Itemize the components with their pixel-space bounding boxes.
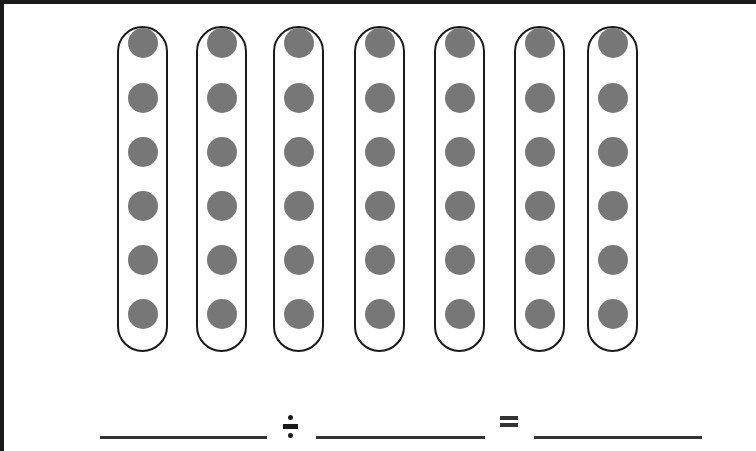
- counter-dot: [207, 137, 237, 167]
- counter-dot: [445, 299, 475, 329]
- counter-dot: [445, 83, 475, 113]
- counter-dot: [445, 137, 475, 167]
- dividend-blank[interactable]: [100, 436, 267, 439]
- counter-dot: [598, 28, 628, 58]
- counter-dot: [598, 137, 628, 167]
- counter-dot: [445, 28, 475, 58]
- divisor-blank[interactable]: [316, 436, 485, 439]
- counter-dot: [525, 245, 555, 275]
- counter-dot: [445, 191, 475, 221]
- counter-dot: [365, 83, 395, 113]
- counter-dot: [525, 137, 555, 167]
- counter-dot: [128, 245, 158, 275]
- equals-sign: [500, 416, 518, 428]
- counter-dot: [365, 137, 395, 167]
- divide-sign: [283, 415, 299, 439]
- counter-dot: [128, 137, 158, 167]
- group-pill-1: [117, 26, 168, 352]
- counter-dot: [207, 83, 237, 113]
- counter-dot: [284, 28, 314, 58]
- counter-dot: [365, 191, 395, 221]
- counter-dot: [598, 299, 628, 329]
- counter-dot: [207, 28, 237, 58]
- counter-dot: [525, 191, 555, 221]
- counter-dot: [598, 83, 628, 113]
- counter-dot: [598, 191, 628, 221]
- counter-dot: [525, 83, 555, 113]
- counter-dot: [207, 191, 237, 221]
- group-pill-3: [273, 26, 324, 352]
- counter-dot: [128, 83, 158, 113]
- group-pill-4: [354, 26, 405, 352]
- counter-dot: [284, 245, 314, 275]
- quotient-blank[interactable]: [534, 436, 702, 439]
- group-pill-5: [434, 26, 485, 352]
- counter-dot: [207, 299, 237, 329]
- counter-dot: [207, 245, 237, 275]
- group-pill-7: [587, 26, 638, 352]
- counter-dot: [128, 299, 158, 329]
- counter-dot: [525, 299, 555, 329]
- counter-dot: [128, 191, 158, 221]
- group-pill-2: [196, 26, 247, 352]
- counter-dot: [128, 28, 158, 58]
- counter-dot: [365, 28, 395, 58]
- counter-dot: [284, 83, 314, 113]
- counter-dot: [525, 28, 555, 58]
- counter-dot: [365, 299, 395, 329]
- counter-dot: [284, 299, 314, 329]
- counter-dot: [365, 245, 395, 275]
- counter-dot: [284, 191, 314, 221]
- counter-dot: [284, 137, 314, 167]
- group-pill-6: [514, 26, 565, 352]
- counter-dot: [598, 245, 628, 275]
- counter-dot: [445, 245, 475, 275]
